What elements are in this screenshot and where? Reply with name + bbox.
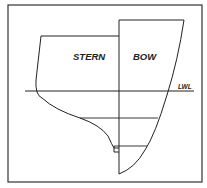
lwl-label: LWL [178,83,192,90]
bow-label: BOW [133,51,157,62]
bow-half-section [119,20,184,174]
keel-step [114,146,119,152]
hull-body-plan-diagram: STERN BOW LWL [0,0,207,188]
stern-label: STERN [73,51,106,62]
